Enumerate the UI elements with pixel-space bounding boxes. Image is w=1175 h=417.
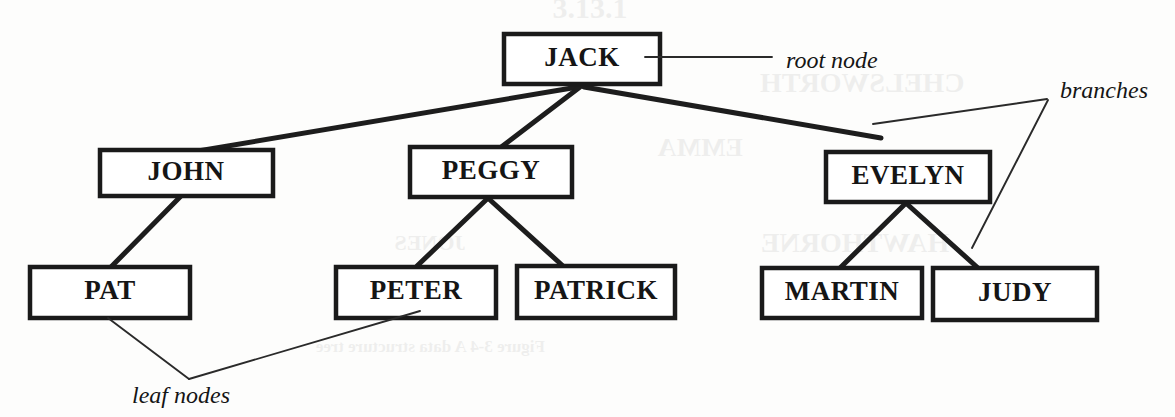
ghost-text: EMMA — [657, 133, 742, 162]
node-martin[interactable]: MARTIN — [762, 268, 922, 318]
annotation-leaders — [108, 57, 1048, 379]
node-label: PATRICK — [534, 275, 658, 305]
node-label: EVELYN — [851, 160, 964, 190]
node-pat[interactable]: PAT — [30, 267, 190, 318]
ghost-text: 3.13.1 — [553, 0, 628, 24]
annotation-root-node: root node — [786, 47, 878, 73]
node-label: JOHN — [147, 156, 224, 186]
node-label: MARTIN — [785, 276, 900, 306]
node-label: JACK — [544, 42, 620, 72]
node-label: PAT — [84, 275, 136, 305]
branch-peggy-patrick — [489, 199, 563, 266]
node-label: PEGGY — [442, 155, 541, 185]
leader-leaf-pat — [108, 318, 189, 379]
node-peter[interactable]: PETER — [336, 267, 496, 318]
branch-jack-john — [198, 87, 578, 151]
branch-john-pat — [110, 197, 180, 268]
node-evelyn[interactable]: EVELYN — [826, 152, 990, 202]
tree-diagram: 3.13.1 CHELSWORTH EMMA JONES HAWTHORNE F… — [0, 0, 1175, 417]
diagram-canvas: 3.13.1 CHELSWORTH EMMA JONES HAWTHORNE F… — [0, 0, 1175, 417]
leader-branches-upper — [873, 99, 1047, 124]
node-judy[interactable]: JUDY — [933, 268, 1097, 320]
node-label: JUDY — [978, 277, 1052, 307]
node-label: PETER — [370, 275, 463, 305]
ghost-text: Figure 3-4 A data structure tree — [316, 337, 545, 356]
node-jack[interactable]: JACK — [504, 34, 660, 84]
annotation-leaf-nodes: leaf nodes — [132, 382, 230, 408]
node-peggy[interactable]: PEGGY — [410, 147, 572, 197]
annotation-branches: branches — [1060, 77, 1148, 103]
node-patrick[interactable]: PATRICK — [517, 266, 675, 318]
node-john[interactable]: JOHN — [100, 150, 273, 196]
